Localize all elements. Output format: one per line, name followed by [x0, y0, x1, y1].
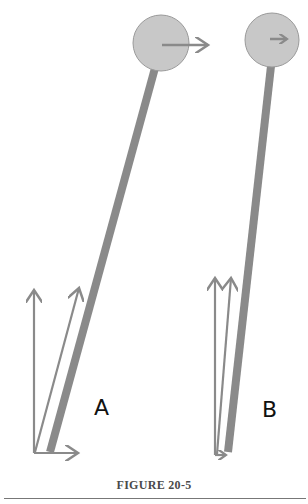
- caption-divider: [4, 498, 306, 499]
- panel-label-b: B: [262, 397, 277, 422]
- pendulum-rod-b: [228, 66, 271, 452]
- panel-b: [215, 13, 299, 455]
- figure-caption: FIGURE 20-5: [0, 478, 308, 493]
- panel-label-a: A: [94, 395, 109, 420]
- pendulum-diagram: [0, 0, 308, 504]
- pendulum-bob-a: [133, 15, 189, 71]
- panel-a: [34, 15, 208, 453]
